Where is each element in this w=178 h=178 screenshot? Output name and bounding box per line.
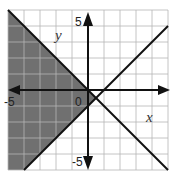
tick-label-y-5: 5 [75, 15, 82, 29]
tick-label-x-neg5: -5 [4, 95, 15, 109]
origin-label: 0 [75, 95, 82, 109]
y-axis-up-arrow-icon [83, 12, 93, 26]
x-axis-label: x [145, 109, 153, 125]
tick-label-y-neg5: -5 [72, 155, 83, 169]
coordinate-plane: y x 5 -5 -5 0 [0, 0, 178, 178]
y-axis-label: y [53, 27, 62, 43]
y-axis-down-arrow-icon [83, 156, 93, 170]
